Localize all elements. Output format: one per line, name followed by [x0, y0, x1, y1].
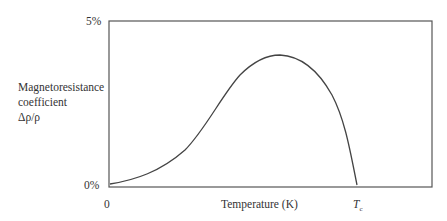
- y-axis-label-line1: Magnetoresistance: [18, 80, 104, 94]
- x-tick-origin: 0: [104, 197, 110, 211]
- y-tick-bottom: 0%: [84, 178, 99, 192]
- y-axis-label-line3: Δρ/ρ: [18, 110, 40, 124]
- plot-frame: [109, 21, 432, 187]
- x-tick-tc: Tc: [353, 197, 363, 216]
- chart-canvas: [0, 0, 447, 221]
- x-axis-label: Temperature (K): [221, 197, 298, 211]
- y-axis-label-line2: coefficient: [18, 95, 67, 109]
- y-tick-top: 5%: [86, 14, 101, 28]
- tc-subscript: c: [359, 205, 362, 213]
- magnetoresistance-curve: [110, 55, 357, 185]
